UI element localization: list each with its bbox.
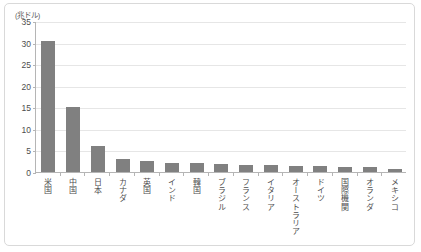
- bar-slot: [85, 22, 110, 172]
- x-tick-label: メキシコ: [389, 178, 398, 211]
- x-tick-mark: [233, 173, 234, 176]
- x-tick-label: インド: [166, 178, 175, 203]
- bar: [165, 163, 179, 172]
- bar: [116, 159, 130, 172]
- y-tick-label: 15: [22, 103, 31, 113]
- x-tick-mark: [258, 173, 259, 176]
- bar: [190, 163, 204, 172]
- bar: [91, 146, 105, 172]
- x-tick-label: 国際機関: [340, 178, 349, 211]
- x-tick-mark: [109, 173, 110, 176]
- bar-slot: [308, 22, 333, 172]
- x-tick-mark: [84, 173, 85, 176]
- bar-slot: [234, 22, 259, 172]
- bar-slot: [209, 22, 234, 172]
- bar-slot: [135, 22, 160, 172]
- bar-series: [36, 22, 406, 172]
- x-tick-label: カナダ: [117, 178, 126, 203]
- y-tick-label: 35: [22, 17, 31, 27]
- bar-slot: [358, 22, 383, 172]
- x-tick-mark: [208, 173, 209, 176]
- y-tick-label: 10: [22, 125, 31, 135]
- y-tick-label: 0: [26, 168, 31, 178]
- bar-slot: [283, 22, 308, 172]
- bar-slot: [36, 22, 61, 172]
- bar: [264, 165, 278, 172]
- plot-area: 05101520253035: [35, 22, 406, 173]
- x-tick-label: イタリア: [265, 178, 274, 211]
- x-tick-mark: [183, 173, 184, 176]
- bar-slot: [333, 22, 358, 172]
- x-tick-label: オーストラリア: [290, 178, 299, 235]
- x-tick-mark: [357, 173, 358, 176]
- bar: [338, 167, 352, 172]
- x-tick-label: 中国: [67, 178, 76, 194]
- x-tick-mark: [60, 173, 61, 176]
- bar-slot: [61, 22, 86, 172]
- y-tick-label: 20: [22, 82, 31, 92]
- bar-slot: [382, 22, 407, 172]
- bar: [363, 167, 377, 172]
- bar: [214, 164, 228, 172]
- x-tick-mark: [307, 173, 308, 176]
- x-axis: 米国中国日本カナダ英国インド韓国ブラジルフランスイタリアオーストラリアドイツ国際…: [35, 173, 406, 243]
- x-tick-mark: [159, 173, 160, 176]
- x-tick-mark: [332, 173, 333, 176]
- y-tick-label: 25: [22, 60, 31, 70]
- bar: [66, 107, 80, 172]
- bar-slot: [259, 22, 284, 172]
- x-tick-mark: [381, 173, 382, 176]
- bar: [289, 166, 303, 172]
- bar: [388, 169, 402, 172]
- bar-slot: [160, 22, 185, 172]
- x-tick-mark: [134, 173, 135, 176]
- x-tick-label: ドイツ: [315, 178, 324, 203]
- bar: [313, 166, 327, 172]
- chart-figure: (兆ドル) 05101520253035 米国中国日本カナダ英国インド韓国ブラジ…: [4, 3, 415, 246]
- x-tick-mark: [282, 173, 283, 176]
- bar-slot: [184, 22, 209, 172]
- bar: [140, 161, 154, 172]
- bar-slot: [110, 22, 135, 172]
- bar: [41, 41, 55, 172]
- y-tick-label: 30: [22, 39, 31, 49]
- y-tick-label: 5: [26, 146, 31, 156]
- x-tick-label: オランダ: [364, 178, 373, 211]
- x-tick-label: 英国: [142, 178, 151, 194]
- x-tick-label: 日本: [92, 178, 101, 194]
- bar: [239, 165, 253, 172]
- x-tick-label: 米国: [43, 178, 52, 194]
- x-tick-label: 韓国: [191, 178, 200, 194]
- x-tick-label: ブラジル: [216, 178, 225, 211]
- x-tick-label: フランス: [241, 178, 250, 211]
